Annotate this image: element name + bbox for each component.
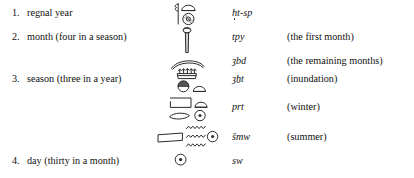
gloss-4: (inundation) (287, 73, 337, 84)
sun-disc-glyph (172, 152, 190, 168)
gloss-6: (summer) (287, 131, 327, 142)
transliteration-1-rest: t-sp (237, 7, 252, 18)
garden-and-water-glyph (156, 122, 220, 150)
figure-sheet: 1.regnal year 2.month (four in a season)… (0, 0, 414, 178)
entry-text-4: day (thirty in a month) (27, 155, 119, 166)
entry-number-2: 2. (12, 31, 27, 42)
transliteration-5: prt (232, 101, 244, 112)
transliteration-1: ht-sp (232, 7, 252, 18)
transliteration-4: ȝẖt (232, 73, 244, 84)
transliteration-1-h: h (232, 7, 237, 18)
crescent-on-pole-glyph (178, 27, 196, 55)
palm-rib-with-sun-and-bread-glyph (168, 2, 206, 26)
entry-text-2: month (four in a season) (27, 31, 127, 42)
transliteration-6: šmw (232, 131, 250, 142)
entry-label-2: 2.month (four in a season) (12, 31, 127, 42)
transliteration-7: sw (232, 155, 243, 166)
entry-label-4: 4.day (thirty in a month) (12, 155, 119, 166)
house-and-bread-glyph (167, 96, 215, 122)
inundation-marsh-glyph (170, 68, 214, 94)
entry-text-1: regnal year (27, 7, 73, 18)
transliteration-2: tpy (232, 31, 244, 42)
entry-label-1: 1.regnal year (12, 7, 73, 18)
entry-number-1: 1. (12, 7, 27, 18)
entry-text-3: season (three in a year) (27, 73, 121, 84)
entry-label-3: 3.season (three in a year) (12, 73, 121, 84)
gloss-3: (the remaining months) (287, 55, 383, 66)
entry-number-3: 3. (12, 73, 27, 84)
gloss-5: (winter) (287, 101, 320, 112)
transliteration-3: ȝbd (232, 55, 246, 66)
entry-number-4: 4. (12, 155, 27, 166)
gloss-2: (the first month) (287, 31, 354, 42)
